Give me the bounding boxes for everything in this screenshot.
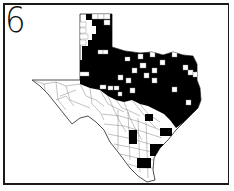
- texas-county-map: [0, 0, 234, 191]
